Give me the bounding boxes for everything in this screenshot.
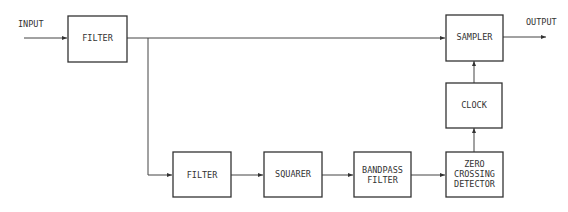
branch-wire (148, 38, 172, 175)
squarer-block: SQUARER (264, 152, 322, 197)
zero-crossing-detector-block: ZERO CROSSING DETECTOR (446, 152, 503, 197)
clock-block: CLOCK (446, 83, 502, 128)
svg-text:BANDPASS: BANDPASS (362, 165, 403, 175)
svg-text:DETECTOR: DETECTOR (454, 179, 496, 189)
sampler-block: SAMPLER (446, 15, 503, 61)
svg-text:FILTER: FILTER (367, 175, 399, 185)
output-label: OUTPUT (526, 17, 557, 27)
svg-text:FILTER: FILTER (187, 170, 219, 180)
input-label: INPUT (18, 19, 44, 29)
svg-text:CLOCK: CLOCK (461, 100, 487, 110)
filter2-block: FILTER (173, 152, 231, 197)
svg-text:SAMPLER: SAMPLER (457, 32, 494, 42)
bandpass-filter-block: BANDPASS FILTER (354, 152, 411, 197)
svg-text:SQUARER: SQUARER (275, 169, 312, 179)
svg-text:FILTER: FILTER (82, 33, 114, 43)
svg-text:ZERO: ZERO (464, 159, 484, 169)
filter-block: FILTER (68, 16, 127, 62)
block-diagram: INPUT OUTPUT FILTER SAMPLER CLOCK FILTER… (0, 0, 568, 212)
svg-text:CROSSING: CROSSING (454, 169, 495, 179)
